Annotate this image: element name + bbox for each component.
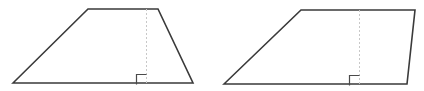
trapezoid-left-outline	[13, 9, 193, 83]
trapezoid-right-outline	[224, 10, 415, 84]
figure-trapezoid-left	[13, 9, 193, 85]
figure-trapezoid-right	[224, 10, 415, 86]
diagram-canvas	[0, 0, 424, 91]
trapezoids-diagram	[0, 0, 424, 91]
